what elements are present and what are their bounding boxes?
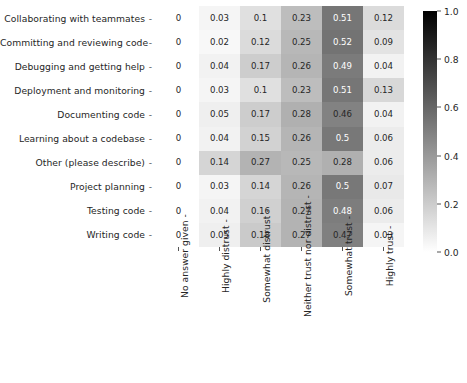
heatmap-cell: 0 xyxy=(158,127,199,151)
x-axis-tick-label: Somewhat trust - xyxy=(322,256,363,376)
colorbar-tick: 0.0 xyxy=(437,247,459,258)
heatmap-cell: 0.06 xyxy=(363,151,404,175)
colorbar-tick-mark xyxy=(437,11,441,12)
heatmap-cell: 0.23 xyxy=(281,6,322,30)
x-axis-tick-label: No answer given - xyxy=(158,256,199,376)
heatmap-cell: 0.5 xyxy=(322,127,363,151)
heatmap-cell: 0.49 xyxy=(322,54,363,78)
heatmap-cell: 0.28 xyxy=(322,151,363,175)
x-axis-tick-text: Highly trust - xyxy=(384,226,395,287)
colorbar-tick-mark xyxy=(437,252,441,253)
x-axis-tick-label: Neither trust nor distrust - xyxy=(281,256,322,376)
heatmap-cell: 0.04 xyxy=(363,102,404,126)
heatmap-cell: 0.06 xyxy=(363,199,404,223)
x-axis-tick-text: Neither trust nor distrust - xyxy=(302,195,313,317)
y-axis-tick-label: Documenting code- xyxy=(0,102,152,126)
x-axis-tick-labels: No answer given -Highly distrust -Somewh… xyxy=(158,256,404,376)
y-axis-tick-text: Deployment and monitoring xyxy=(14,85,145,96)
colorbar-tick: 1.0 xyxy=(437,6,459,17)
heatmap-cell: 0 xyxy=(158,102,199,126)
colorbar-tick: 0.2 xyxy=(437,198,459,209)
heatmap-cell: 0.04 xyxy=(199,54,240,78)
heatmap-cell: 0.06 xyxy=(363,127,404,151)
y-axis-tick-text: Testing code xyxy=(87,205,145,216)
heatmap-cell: 0.04 xyxy=(363,54,404,78)
heatmap-grid: 00.030.10.230.510.1200.020.120.250.520.0… xyxy=(158,6,404,247)
heatmap-cell: 0.04 xyxy=(199,127,240,151)
colorbar-tick-mark xyxy=(437,107,441,108)
heatmap-cell: 0.13 xyxy=(363,78,404,102)
y-axis-tick-mark: - xyxy=(145,133,152,144)
heatmap-cell: 0 xyxy=(158,175,199,199)
y-axis-tick-mark: - xyxy=(148,37,152,48)
y-axis-tick-text: Documenting code xyxy=(57,109,145,120)
heatmap-cell: 0.46 xyxy=(322,102,363,126)
heatmap-figure: Collaborating with teammates-Committing … xyxy=(0,0,467,383)
heatmap-cell: 0 xyxy=(158,78,199,102)
y-axis-tick-mark: - xyxy=(145,205,152,216)
heatmap-cell: 0.1 xyxy=(240,6,281,30)
y-axis-tick-text: Collaborating with teammates xyxy=(4,13,145,24)
x-axis-tick-text: Somewhat distrust - xyxy=(261,209,272,303)
y-axis-tick-text: Writing code xyxy=(87,229,146,240)
heatmap-cell: 0.26 xyxy=(281,54,322,78)
heatmap-cell: 0.17 xyxy=(240,102,281,126)
y-axis-tick-label: Deployment and monitoring- xyxy=(0,78,152,102)
x-axis-tick-label: Highly trust - xyxy=(363,256,404,376)
heatmap-cell: 0.51 xyxy=(322,6,363,30)
heatmap-cell: 0 xyxy=(158,54,199,78)
heatmap-cell: 0.12 xyxy=(240,30,281,54)
y-axis-tick-label: Project planning- xyxy=(0,175,152,199)
colorbar-tick-text: 0.2 xyxy=(444,198,459,209)
y-axis-tick-text: Project planning xyxy=(70,181,145,192)
heatmap-cell: 0.28 xyxy=(281,102,322,126)
colorbar-tick-mark xyxy=(437,203,441,204)
heatmap-cell: 0.05 xyxy=(199,102,240,126)
heatmap-cell: 0.03 xyxy=(199,175,240,199)
x-axis-tick-label: Somewhat distrust - xyxy=(240,256,281,376)
y-axis-tick-text: Debugging and getting help xyxy=(15,61,145,72)
y-axis-tick-label: Committing and reviewing code- xyxy=(0,30,152,54)
y-axis-tick-label: Debugging and getting help- xyxy=(0,54,152,78)
y-axis-tick-mark: - xyxy=(145,13,152,24)
y-axis-tick-label: Other (please describe)- xyxy=(0,151,152,175)
y-axis-tick-mark: - xyxy=(145,181,152,192)
heatmap-cell: 0.52 xyxy=(322,30,363,54)
colorbar-tick-text: 1.0 xyxy=(444,6,459,17)
x-axis-tick-text: Somewhat trust - xyxy=(343,216,354,296)
heatmap-cell: 0.25 xyxy=(281,30,322,54)
colorbar-tick-text: 0.0 xyxy=(444,247,459,258)
heatmap-cell: 0.25 xyxy=(281,151,322,175)
colorbar-tick-text: 0.6 xyxy=(444,102,459,113)
y-axis-tick-mark: - xyxy=(145,229,152,240)
heatmap-cell: 0.15 xyxy=(240,127,281,151)
heatmap-cell: 0.23 xyxy=(281,78,322,102)
y-axis-tick-text: Committing and reviewing code xyxy=(0,37,148,48)
colorbar-tick-labels: 1.00.80.60.40.20.0 xyxy=(437,11,467,252)
colorbar-gradient xyxy=(423,11,437,252)
y-axis-tick-label: Collaborating with teammates- xyxy=(0,6,152,30)
colorbar-tick-text: 0.8 xyxy=(444,54,459,65)
heatmap-cell: 0.5 xyxy=(322,175,363,199)
x-axis-tick-text: Highly distrust - xyxy=(220,219,231,293)
colorbar-tick: 0.6 xyxy=(437,102,459,113)
y-axis-tick-mark: - xyxy=(145,157,152,168)
heatmap-cell: 0 xyxy=(158,30,199,54)
heatmap-cell: 0 xyxy=(158,6,199,30)
heatmap-cell: 0.1 xyxy=(240,78,281,102)
x-axis-tick-label: Highly distrust - xyxy=(199,256,240,376)
heatmap-cell: 0.17 xyxy=(240,54,281,78)
y-axis-tick-labels: Collaborating with teammates-Committing … xyxy=(0,6,152,247)
heatmap-cell: 0.51 xyxy=(322,78,363,102)
colorbar-tick-mark xyxy=(437,155,441,156)
y-axis-tick-label: Writing code- xyxy=(0,223,152,247)
x-axis-tick-marks xyxy=(158,247,404,255)
heatmap-cell: 0.07 xyxy=(363,175,404,199)
heatmap-cell: 0.12 xyxy=(363,6,404,30)
heatmap-cell: 0.03 xyxy=(199,78,240,102)
x-axis-tick-text: No answer given - xyxy=(179,214,190,298)
colorbar-tick-mark xyxy=(437,59,441,60)
heatmap-cell: 0.09 xyxy=(363,30,404,54)
colorbar-tick: 0.4 xyxy=(437,150,459,161)
y-axis-tick-text: Learning about a codebase xyxy=(19,133,145,144)
